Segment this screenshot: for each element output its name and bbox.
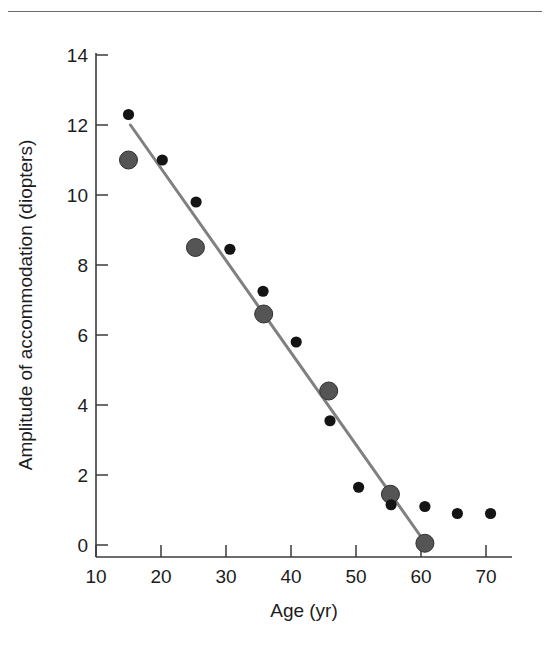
data-point [224, 244, 235, 255]
data-point [320, 382, 338, 400]
y-tick-label-14: 14 [67, 45, 89, 66]
data-point [485, 508, 496, 519]
data-series-large-gray-markers [120, 151, 434, 552]
data-point [255, 305, 273, 323]
data-point [324, 415, 335, 426]
x-tick-label-10: 10 [85, 566, 106, 587]
y-tick-label-0: 0 [77, 535, 88, 556]
data-point [120, 151, 138, 169]
data-point [416, 534, 434, 552]
data-point [452, 508, 463, 519]
x-tick-label-40: 40 [280, 566, 301, 587]
scatter-plot: 02468101214 10203040506070 Age (yr) Ampl… [0, 0, 550, 654]
x-tick-label-20: 20 [150, 566, 171, 587]
x-axis-group: 10203040506070 [85, 545, 512, 587]
x-tick-labels: 10203040506070 [85, 566, 496, 587]
x-axis-title: Age (yr) [270, 600, 338, 621]
data-point [257, 286, 268, 297]
y-tick-marks [96, 55, 108, 545]
figure-container: 02468101214 10203040506070 Age (yr) Ampl… [0, 0, 550, 654]
x-tick-label-70: 70 [475, 566, 496, 587]
y-axis-title: Amplitude of accommodation (diopters) [15, 140, 36, 471]
data-point [353, 482, 364, 493]
data-point [419, 501, 430, 512]
x-tick-label-30: 30 [215, 566, 236, 587]
x-tick-label-50: 50 [345, 566, 366, 587]
data-point [157, 154, 168, 165]
y-tick-label-6: 6 [77, 325, 88, 346]
data-series-small-black-markers [123, 109, 496, 519]
x-tick-label-60: 60 [410, 566, 431, 587]
regression-trend-line [130, 125, 425, 543]
y-tick-label-10: 10 [67, 185, 88, 206]
data-point [186, 239, 204, 257]
y-tick-label-8: 8 [77, 255, 88, 276]
y-tick-label-4: 4 [77, 395, 88, 416]
data-point [386, 499, 397, 510]
data-point [123, 109, 134, 120]
y-tick-label-12: 12 [67, 115, 88, 136]
data-point [191, 196, 202, 207]
y-axis-group: 02468101214 [67, 45, 108, 557]
y-tick-labels: 02468101214 [67, 45, 89, 556]
y-tick-label-2: 2 [77, 465, 88, 486]
data-point [291, 336, 302, 347]
